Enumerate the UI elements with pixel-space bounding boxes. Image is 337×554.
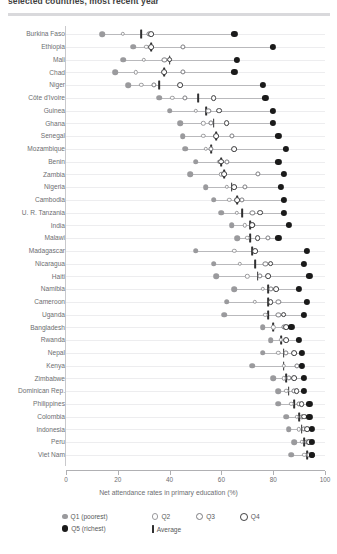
marker-q2 — [232, 249, 236, 253]
marker-q3 — [240, 197, 245, 202]
marker-q3 — [206, 108, 211, 113]
country-label: Mozambique — [0, 145, 65, 152]
marker-q1 — [120, 57, 126, 63]
legend-label: Q4 — [251, 513, 260, 520]
marker-q5 — [309, 426, 315, 432]
marker-q5 — [231, 31, 237, 37]
marker-q4 — [213, 133, 219, 139]
marker-q5 — [296, 337, 302, 343]
x-axis-title: Net attendance rates in primary educatio… — [0, 489, 337, 496]
y-axis-line — [65, 26, 66, 466]
marker-q2 — [261, 287, 265, 291]
marker-avg — [197, 93, 199, 102]
marker-avg — [241, 208, 243, 217]
chart-title: selected countries, most recent year — [8, 0, 330, 6]
marker-q1 — [276, 401, 282, 407]
marker-q4 — [273, 286, 279, 292]
legend-label: Q1 (poorest) — [71, 513, 108, 520]
marker-q2 — [204, 147, 208, 151]
marker-q5 — [286, 222, 292, 228]
legend-item-q2[interactable]: Q2 — [152, 513, 170, 520]
marker-q5 — [270, 120, 276, 126]
marker-q5 — [301, 388, 307, 394]
marker-q1 — [221, 312, 227, 318]
marker-q1 — [224, 299, 230, 305]
marker-q2 — [224, 185, 228, 189]
quintile-connector — [123, 60, 237, 61]
country-label: Madagascar — [0, 247, 65, 254]
country-label: Nicaragua — [0, 260, 65, 267]
marker-q4 — [221, 171, 227, 177]
legend-item-q4[interactable]: Q4 — [240, 513, 260, 521]
marker-q5 — [270, 107, 276, 113]
marker-q3 — [224, 159, 229, 164]
country-label: Niger — [0, 81, 65, 88]
quintile-connector — [190, 174, 283, 175]
marker-avg — [267, 310, 269, 319]
marker-q4 — [167, 57, 173, 63]
marker-q3 — [242, 184, 247, 189]
marker-q2 — [141, 57, 145, 61]
marker-q1 — [270, 375, 276, 381]
marker-avg — [293, 399, 295, 408]
quintile-connector — [128, 85, 263, 86]
legend-item-q3[interactable]: Q3 — [196, 513, 215, 520]
marker-q1 — [188, 171, 194, 177]
marker-q2 — [245, 274, 249, 278]
marker-avg — [158, 81, 160, 90]
country-label: Dominican Rep. — [0, 387, 65, 394]
marker-q2 — [243, 223, 247, 227]
marker-q2 — [276, 351, 280, 355]
marker-avg — [254, 259, 256, 268]
marker-q2 — [201, 134, 205, 138]
legend-label: Q5 (richest) — [71, 525, 105, 532]
quintile-connector — [196, 162, 279, 163]
marker-q3 — [265, 235, 270, 240]
legend-item-q1[interactable]: Q1 (poorest) — [62, 513, 108, 520]
marker-q3 — [183, 95, 188, 100]
marker-q3 — [151, 82, 156, 87]
country-label: Ghana — [0, 120, 65, 127]
marker-q1 — [203, 184, 209, 190]
country-label: Kenya — [0, 362, 65, 369]
marker-q4 — [218, 159, 224, 165]
marker-q1 — [232, 286, 238, 292]
country-label: Viet Nam — [0, 451, 65, 458]
marker-q1 — [286, 426, 292, 432]
marker-q5 — [275, 158, 281, 164]
marker-q1 — [167, 108, 173, 114]
marker-q2 — [253, 300, 257, 304]
marker-q5 — [234, 56, 240, 62]
x-tick-label: 20 — [114, 476, 121, 483]
marker-q1 — [211, 261, 217, 267]
marker-q1 — [193, 248, 199, 254]
marker-q2 — [170, 96, 174, 100]
marker-q3 — [250, 210, 255, 215]
marker-q1 — [177, 120, 183, 126]
country-label: Uganda — [0, 311, 65, 318]
marker-q5 — [301, 260, 307, 266]
marker-q2 — [237, 261, 241, 265]
country-label: Indonesia — [0, 426, 65, 433]
country-label: U. R. Tanzania — [0, 209, 65, 216]
marker-q4 — [299, 401, 305, 407]
marker-q4 — [224, 120, 230, 126]
legend-swatch-q3-icon — [196, 513, 203, 520]
plot-area: Burkina FasoEthiopiaMaliChadNigerCôte d'… — [0, 24, 337, 472]
legend-item-q5[interactable]: Q5 (richest) — [62, 525, 106, 532]
legend-item-avg[interactable]: Average — [152, 525, 181, 533]
gridline — [66, 187, 325, 188]
marker-q1 — [229, 222, 235, 228]
marker-q1 — [276, 388, 282, 394]
country-label: Chad — [0, 69, 65, 76]
marker-avg — [140, 30, 142, 39]
marker-q1 — [260, 350, 266, 356]
marker-avg — [249, 234, 251, 243]
x-tick — [221, 471, 222, 475]
x-tick — [273, 471, 274, 475]
marker-q1 — [112, 69, 118, 75]
marker-q5 — [304, 248, 310, 254]
marker-q4 — [281, 312, 287, 318]
marker-q1 — [131, 44, 137, 50]
country-label: Burkina Faso — [0, 30, 65, 37]
